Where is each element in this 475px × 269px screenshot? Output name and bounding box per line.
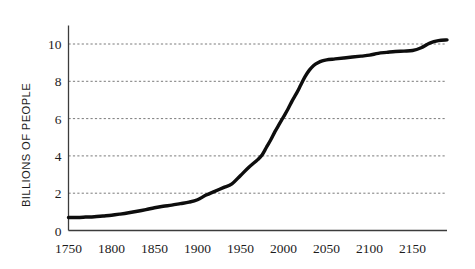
y-tick-label-8: 8 <box>55 74 62 89</box>
data-line-0 <box>69 40 448 218</box>
x-tick-label-2150: 2150 <box>399 241 426 256</box>
chart-canvas: 0246810 17501800185019001950200020502100… <box>0 0 475 269</box>
y-tick-label-2: 2 <box>55 186 62 201</box>
y-tick-labels: 0246810 <box>48 37 62 239</box>
x-tick-label-2100: 2100 <box>356 241 383 256</box>
x-tick-label-1800: 1800 <box>98 241 125 256</box>
gridlines <box>69 44 446 193</box>
axes <box>69 26 448 231</box>
x-tick-label-1950: 1950 <box>227 241 254 256</box>
data-series-group <box>69 40 448 218</box>
y-tick-label-4: 4 <box>55 149 62 164</box>
y-tick-label-10: 10 <box>48 37 62 52</box>
x-tick-label-1750: 1750 <box>55 241 82 256</box>
x-tick-label-2000: 2000 <box>270 241 297 256</box>
y-tick-label-6: 6 <box>55 112 62 127</box>
x-tick-label-1900: 1900 <box>184 241 211 256</box>
x-tick-label-1850: 1850 <box>141 241 168 256</box>
y-axis-title: BILLIONS OF PEOPLE <box>20 83 32 207</box>
x-tick-label-2050: 2050 <box>313 241 340 256</box>
population-chart: 0246810 17501800185019001950200020502100… <box>0 0 475 269</box>
y-tick-label-0: 0 <box>55 224 62 239</box>
x-tick-labels: 175018001850190019502000205021002150 <box>55 241 426 256</box>
